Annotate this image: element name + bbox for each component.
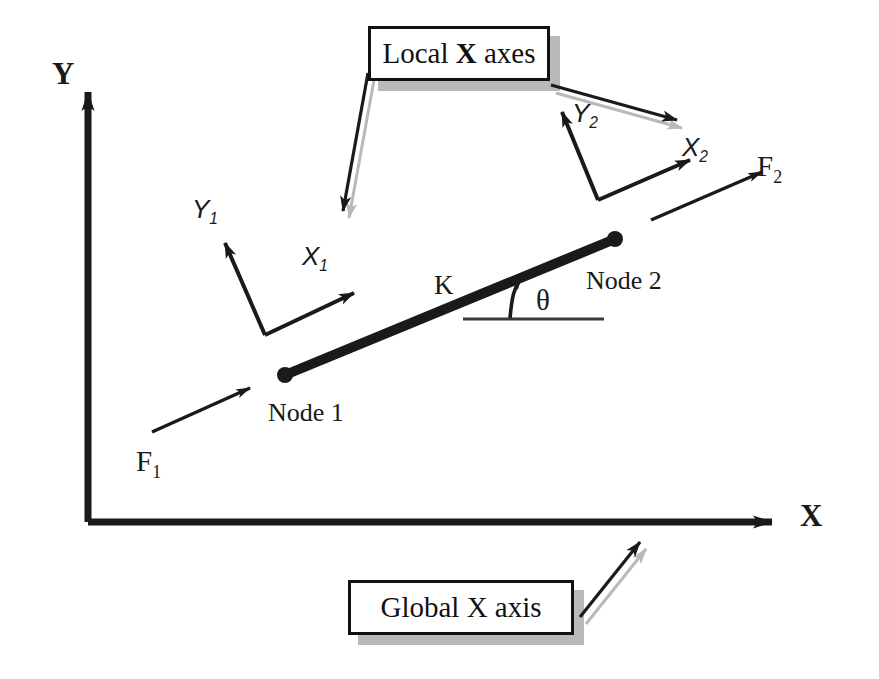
force-f1-base: F: [136, 445, 152, 477]
leader-global: [580, 542, 646, 624]
force-f2-label: F2: [757, 152, 782, 186]
local-x1-label: X1: [302, 243, 328, 274]
local-axes-callout-emphasis: X: [456, 37, 477, 69]
local-axes-callout-box: Local X axes: [368, 26, 550, 81]
force-f2-subscript: 2: [773, 167, 782, 187]
local-y1-base: Y: [192, 194, 209, 224]
global-y-axis-label: Y: [52, 58, 74, 89]
local-x1-axis: [265, 293, 354, 335]
element-coordinate-diagram: Y X F1 F2 Node 1 Node 2 K θ Y1 X1 Y2 X2 …: [0, 0, 879, 679]
global-axis-callout-box: Global X axis: [348, 580, 574, 635]
local-y1-axis: [225, 243, 265, 335]
leader-global-line: [580, 542, 640, 617]
local-y2-subscript: 2: [589, 114, 598, 131]
local-x2-subscript: 2: [699, 148, 708, 165]
local-y1-subscript: 1: [209, 210, 218, 227]
local-x1-base: X: [302, 241, 319, 271]
node-1-marker: [277, 367, 293, 383]
global-axes: [88, 92, 772, 522]
force-f1-label: F1: [136, 447, 161, 481]
local-x1-subscript: 1: [319, 257, 328, 274]
angle-theta-label: θ: [536, 286, 550, 315]
force-f1-subscript: 1: [152, 462, 161, 482]
force-f2-base: F: [757, 150, 773, 182]
stiffness-label: K: [434, 272, 454, 299]
local-y2-label: Y2: [572, 100, 598, 131]
node-2-label: Node 2: [586, 268, 662, 294]
local-axes-callout-text: Local X axes: [383, 37, 536, 70]
angle-theta-group: [463, 278, 604, 319]
beam-member: [285, 239, 615, 375]
local-x2-label: X2: [682, 134, 708, 165]
global-axis-callout-prefix: Global X axis: [380, 591, 541, 623]
local-axes-callout-suffix: axes: [477, 37, 536, 69]
local-axes-callout-prefix: Local: [383, 37, 456, 69]
local-frame-1: [225, 243, 354, 335]
local-y1-label: Y1: [192, 196, 218, 227]
diagram-canvas: [0, 0, 879, 679]
local-x2-base: X: [682, 132, 699, 162]
global-axis-callout-text: Global X axis: [380, 591, 541, 624]
force-f2-arrow: [651, 172, 762, 220]
local-y2-base: Y: [572, 98, 589, 128]
leader-local-right: [551, 85, 682, 128]
leader-local-right-line: [551, 85, 677, 120]
leader-global-shadow: [586, 549, 646, 624]
node-2-marker: [607, 231, 623, 247]
global-x-axis-label: X: [800, 500, 822, 531]
force-f1-arrow: [152, 388, 250, 432]
node-1-label: Node 1: [268, 400, 344, 426]
local-x2-axis: [598, 160, 690, 200]
leader-local-left: [343, 73, 374, 218]
